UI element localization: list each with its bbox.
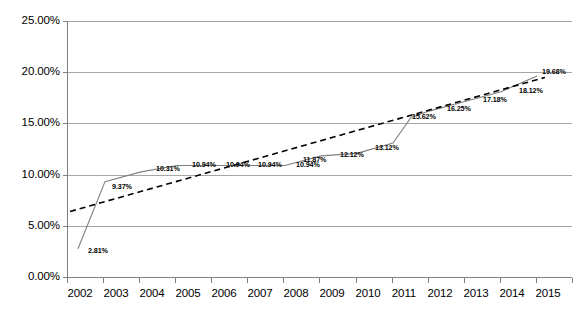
data-label-2014: 17.18% [483,95,507,104]
xtick-label-2007: 2007 [244,287,276,299]
data-label-2006: 10.94% [226,160,250,169]
xtick-label-2009: 2009 [316,287,348,299]
x-axis-ticks [68,278,573,283]
chart-container: 25.00% 20.00% 15.00% 10.00% 5.00% 0.00% … [0,0,583,316]
xtick-label-2011: 2011 [388,287,420,299]
ytick-label-15: 15.00% [8,116,60,128]
data-label-2009: 11.87% [303,155,326,164]
data-label-2005: 10.94% [192,160,216,169]
xtick-label-2010: 2010 [352,287,384,299]
ytick-label-5: 5.00% [8,219,60,231]
xtick-label-2002: 2002 [64,287,96,299]
ytick-label-10: 10.00% [8,168,60,180]
data-label-2004: 10.31% [156,164,180,173]
trendline [70,77,545,211]
xtick-label-2005: 2005 [172,287,204,299]
xtick-label-2004: 2004 [136,287,168,299]
ytick-label-25: 25.00% [8,14,60,26]
data-label-2011: 13.12% [375,143,399,152]
xtick-label-2013: 2013 [460,287,492,299]
data-label-2015-end: 19.68% [542,67,566,76]
axis-lines [67,21,572,278]
xtick-label-2008: 2008 [280,287,312,299]
data-label-2002: 2.81% [88,246,108,255]
xtick-label-2014: 2014 [496,287,528,299]
data-label-2012: 15.62% [412,112,436,121]
data-label-2003: 9.37% [112,182,132,191]
data-label-2013: 16.25% [447,104,471,113]
data-label-2007: 10.94% [258,160,282,169]
data-label-2015: 18.12% [519,86,543,95]
xtick-label-2015: 2015 [532,287,564,299]
chart-plot-area [0,0,583,316]
xtick-label-2003: 2003 [100,287,132,299]
ytick-label-20: 20.00% [8,65,60,77]
y-axis-ticks [63,22,68,278]
xtick-label-2012: 2012 [424,287,456,299]
ytick-label-0: 0.00% [8,270,60,282]
gridlines [67,22,572,227]
data-label-2010: 12.12% [340,150,364,159]
xtick-label-2006: 2006 [208,287,240,299]
